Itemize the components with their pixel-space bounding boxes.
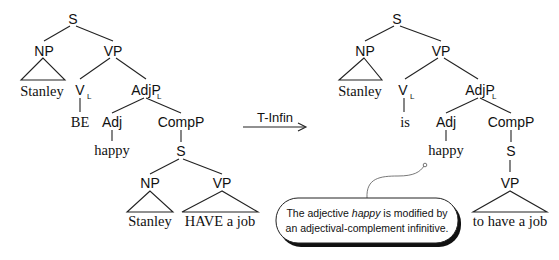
word-stanley-2: Stanley: [128, 213, 172, 229]
node-np: NP: [355, 43, 374, 59]
edge: [76, 26, 113, 41]
node-adjp-sub: L: [157, 92, 162, 101]
right-tree: S NP VP Stanley V L AdjP L is Adj CompP …: [338, 11, 547, 229]
node-compp: CompP: [158, 114, 205, 130]
node-adj: Adj: [436, 114, 456, 130]
edge: [150, 159, 179, 174]
edge: [400, 26, 441, 41]
np-triangle: [127, 191, 173, 212]
node-v: V: [75, 82, 85, 98]
edge: [80, 58, 110, 79]
left-tree: S NP VP Stanley V L AdjP L BE Adj CompP …: [20, 11, 258, 229]
word-stanley: Stanley: [20, 83, 64, 99]
callout-note: The adjective happy is modified by an ad…: [276, 163, 461, 247]
node-np2: NP: [140, 175, 159, 191]
node-vp2: VP: [501, 175, 520, 191]
node-v-sub: L: [87, 92, 92, 101]
vp-triangle: [473, 191, 547, 212]
callout-box: [276, 198, 458, 243]
transformation-arrow: T-Infin: [243, 110, 306, 131]
np-triangle: [339, 58, 382, 80]
edge: [365, 26, 394, 41]
node-v: V: [398, 82, 408, 98]
word-have-a-job: HAVE a job: [185, 213, 256, 229]
vp-triangle: [182, 191, 258, 212]
np-triangle: [21, 58, 65, 80]
edge: [446, 98, 478, 113]
callout-anchor-icon: [423, 163, 427, 167]
callout-line-2: an adjectival-complement infinitive.: [286, 222, 449, 234]
edge: [116, 58, 146, 79]
edge: [444, 58, 478, 79]
word-is: is: [400, 114, 410, 130]
edge: [44, 26, 70, 41]
word-to-have-a-job: to have a job: [473, 213, 548, 229]
node-vp: VP: [104, 43, 123, 59]
callout-connector: [367, 166, 424, 198]
word-stanley: Stanley: [338, 83, 382, 99]
node-s2: S: [176, 143, 185, 159]
word-happy: happy: [428, 142, 464, 158]
node-adjp: AdjP: [465, 82, 495, 98]
node-compp: CompP: [488, 114, 535, 130]
edge: [405, 58, 438, 79]
syntax-diagram: S NP VP Stanley V L AdjP L BE Adj CompP …: [0, 0, 559, 260]
edge: [183, 159, 222, 174]
node-adj: Adj: [102, 114, 122, 130]
callout-line-1: The adjective happy is modified by: [286, 207, 448, 219]
word-be: BE: [71, 114, 90, 130]
node-s2: S: [506, 143, 515, 159]
word-happy: happy: [94, 142, 130, 158]
node-vp: VP: [432, 43, 451, 59]
node-s: S: [392, 11, 401, 27]
node-np: NP: [34, 43, 53, 59]
node-adjp-sub: L: [492, 92, 497, 101]
node-s: S: [68, 11, 77, 27]
edge: [112, 98, 144, 113]
transformation-label: T-Infin: [257, 110, 293, 125]
edge: [146, 98, 181, 113]
node-vp2: VP: [213, 175, 232, 191]
node-v-sub: L: [410, 92, 415, 101]
